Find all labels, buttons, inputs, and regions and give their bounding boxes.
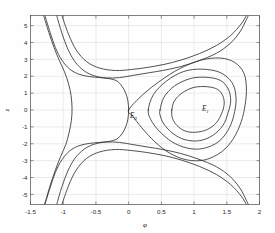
y-axis-label: z bbox=[3, 108, 11, 112]
y-tick-label: -2 bbox=[22, 140, 28, 147]
y-tick-label: 5 bbox=[24, 22, 28, 29]
y-tick-label: 1 bbox=[24, 89, 28, 96]
x-tick-label: -1 bbox=[60, 208, 66, 215]
y-tick-label: -3 bbox=[22, 157, 28, 164]
phase-portrait-svg: -1.5-1-0.500.511.52-5-4-3-2-1012345 E0E1… bbox=[0, 0, 275, 233]
x-tick-label: 1.5 bbox=[222, 208, 231, 215]
y-tick-label: -1 bbox=[22, 123, 28, 130]
y-tick-label: -4 bbox=[22, 174, 28, 181]
x-tick-label: 1 bbox=[192, 208, 196, 215]
x-tick-label: 2 bbox=[258, 208, 262, 215]
phase-portrait-figure: -1.5-1-0.500.511.52-5-4-3-2-1012345 E0E1… bbox=[0, 0, 275, 233]
y-tick-label: -5 bbox=[22, 191, 28, 198]
y-tick-label: 0 bbox=[24, 106, 28, 113]
x-tick-label: -1.5 bbox=[25, 208, 36, 215]
y-tick-label: 3 bbox=[24, 56, 28, 63]
x-tick-label: 0.5 bbox=[157, 208, 166, 215]
x-tick-label: -0.5 bbox=[91, 208, 102, 215]
y-tick-label: 2 bbox=[24, 72, 28, 79]
x-axis-label: φ bbox=[143, 221, 147, 229]
x-tick-label: 0 bbox=[127, 208, 131, 215]
y-tick-label: 4 bbox=[24, 39, 28, 46]
